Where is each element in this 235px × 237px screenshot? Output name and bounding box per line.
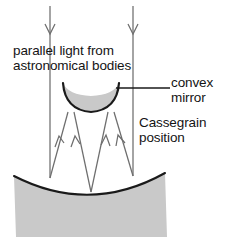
label-convex-mirror: convex mirror xyxy=(171,76,213,105)
reflected-rays-group xyxy=(50,112,133,192)
reflected-ray-3 xyxy=(91,112,108,192)
label-parallel-light-line2: astronomical bodies xyxy=(13,59,131,74)
incoming-parallel-rays-group xyxy=(45,6,138,178)
label-convex-mirror-line2: mirror xyxy=(171,91,213,106)
optics-diagram-figure: parallel light from astronomical bodies … xyxy=(0,0,235,237)
primary-mirror-group xyxy=(14,173,167,237)
reflected-ray-2-arrowhead xyxy=(71,136,80,147)
label-cassegrain-line1: Cassegrain xyxy=(139,116,206,131)
convex-secondary-mirror-body xyxy=(63,83,119,112)
label-cassegrain-line2: position xyxy=(139,131,206,146)
label-convex-mirror-line1: convex xyxy=(171,76,213,91)
reflected-ray-1 xyxy=(50,112,68,178)
label-parallel-light: parallel light from astronomical bodies xyxy=(13,44,131,73)
secondary-mirror-group xyxy=(63,83,119,112)
label-parallel-light-line1: parallel light from xyxy=(13,44,131,59)
label-cassegrain-position: Cassegrain position xyxy=(139,116,206,145)
reflected-ray-2 xyxy=(74,112,91,192)
